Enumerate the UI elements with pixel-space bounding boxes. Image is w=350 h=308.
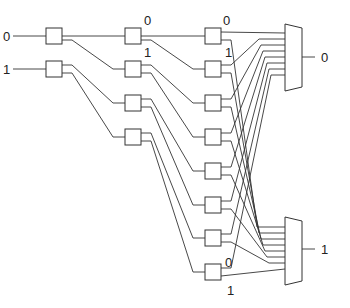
wire-c3-mux-top [221, 32, 285, 33]
mux-top-output-label: 0 [321, 50, 328, 65]
switch-box-col3 [205, 28, 221, 44]
wire-c3-mux-top [221, 63, 285, 201]
wire-c2-c3 [141, 65, 205, 103]
switch-box-col3 [205, 264, 221, 280]
col2-port-label-0: 0 [144, 13, 151, 28]
tree-mux-diagram: 0 1 0 1 0 1 0 1 0 1 [0, 0, 350, 308]
wire-c2-c3 [141, 73, 205, 137]
wire-c1-c2 [62, 65, 125, 103]
switch-box-col1 [46, 28, 62, 44]
wire-c3-mux-bottom [221, 141, 285, 245]
muxes [285, 24, 315, 285]
wire-c3-mux-bottom [221, 107, 285, 239]
switch-box-col2 [125, 28, 141, 44]
input-label-1: 1 [3, 62, 10, 77]
wire-c3-mux-top [221, 57, 285, 167]
switch-box-col3 [205, 163, 221, 179]
col3-bottom-port-label-1: 1 [227, 283, 234, 298]
switch-box-col3 [205, 95, 221, 111]
col3-port-label-0: 0 [223, 13, 230, 28]
mux-bottom [285, 217, 302, 285]
wire-c2-c3 [141, 141, 205, 272]
wire-c2-c3 [141, 133, 205, 238]
switch-box-col3 [205, 197, 221, 213]
wire-c3-mux-bottom [221, 269, 285, 276]
col3-port-label-1: 1 [225, 45, 232, 60]
wire-c1-c2 [62, 73, 125, 137]
input-label-0: 0 [3, 29, 10, 44]
switch-box-col2 [125, 61, 141, 77]
wire-c2-c3 [141, 107, 205, 205]
switch-box-col1 [46, 61, 62, 77]
labels: 0 1 0 1 0 1 0 1 0 1 [3, 13, 328, 298]
switch-box-col3 [205, 129, 221, 145]
mux-top [285, 24, 302, 91]
col3-bottom-port-label-0: 0 [225, 255, 232, 270]
wire-c2-c3 [141, 99, 205, 171]
switch-box-col2 [125, 95, 141, 111]
col2-port-label-1: 1 [144, 45, 151, 60]
switch-box-col2 [125, 129, 141, 145]
switch-box-col3 [205, 230, 221, 246]
switch-box-col3 [205, 61, 221, 77]
mux-bottom-output-label: 1 [321, 242, 328, 257]
